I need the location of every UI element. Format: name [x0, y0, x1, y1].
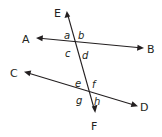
point-label-b: B [147, 43, 155, 56]
angle-label-e: e [75, 78, 81, 89]
diagram-canvas: A B C D E F a b c d e f g h [0, 0, 162, 137]
angle-label-a: a [64, 30, 70, 41]
angle-label-c: c [65, 48, 71, 59]
line-ab [36, 35, 144, 50]
point-label-d: D [140, 101, 148, 114]
angle-label-g: g [76, 95, 82, 106]
angle-label-f: f [92, 79, 97, 90]
arrowhead-d-icon [131, 101, 138, 107]
arrowhead-b-icon [137, 45, 144, 51]
point-label-c: C [10, 67, 18, 80]
geometry-figure: A B C D E F a b c d e f g h [0, 0, 162, 137]
point-label-f: F [91, 120, 97, 133]
angle-label-d: d [82, 50, 89, 61]
arrowhead-a-icon [36, 35, 43, 41]
arrowhead-e-icon [65, 11, 71, 18]
point-label-a: A [22, 33, 30, 46]
arrowhead-c-icon [24, 71, 31, 77]
angle-label-b: b [78, 30, 84, 41]
point-label-e: E [54, 7, 61, 20]
angle-label-h: h [94, 96, 100, 107]
